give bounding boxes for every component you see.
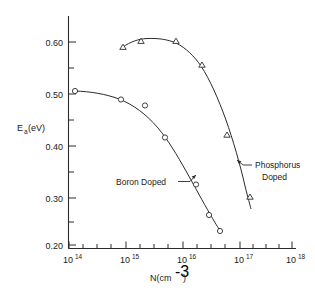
y-axis-ticks (69, 42, 77, 245)
phosphorus-annotation-line1: Phosphorus (255, 160, 300, 170)
y-tick-label-020: 0.20 (45, 241, 63, 251)
data-point-marker (193, 182, 198, 187)
y-tick-label-050: 0.50 (45, 90, 63, 100)
data-point-marker (217, 228, 222, 233)
boron-data-markers (72, 88, 222, 233)
figure-container: 0.60 0.50 0.40 0.30 0.20 E a (eV) (0, 0, 315, 295)
x-tick-label-1e17-exponent: 17 (246, 253, 254, 260)
x-axis-title-tail: ) (183, 273, 186, 283)
x-tick-label-1e18-mantissa: 10 (286, 255, 296, 265)
x-tick-label-1e18-exponent: 18 (298, 253, 306, 260)
boron-curve-line (75, 91, 219, 229)
annotation-phosphorus-doped: Phosphorus Doped (237, 160, 300, 182)
annotation-boron-doped: Boron Doped (116, 175, 196, 187)
data-point-marker (162, 135, 167, 140)
y-axis-title: E a (eV) (17, 123, 45, 135)
phosphorus-data-markers (120, 38, 253, 199)
energy-vs-doping-chart: 0.60 0.50 0.40 0.30 0.20 E a (eV) (0, 0, 315, 295)
data-point-marker (142, 103, 147, 108)
data-point-marker (224, 132, 230, 137)
data-point-marker (173, 38, 179, 43)
x-tick-label-1e14-exponent: 14 (75, 253, 83, 260)
phosphorus-annotation-line2: Doped (262, 172, 287, 182)
x-tick-label-1e15-mantissa: 10 (120, 255, 130, 265)
y-tick-label-060: 0.60 (45, 38, 63, 48)
x-axis-title: N(cm -3 ) (150, 263, 189, 283)
x-tick-label-1e15-exponent: 15 (132, 253, 140, 260)
y-axis-title-units: (eV) (28, 123, 45, 133)
x-axis-ticks (69, 242, 292, 249)
y-axis-tick-labels: 0.60 0.50 0.40 0.30 0.20 (45, 38, 63, 251)
series-boron-doped (72, 88, 222, 233)
x-tick-label-1e14-mantissa: 10 (63, 255, 73, 265)
boron-annotation-label: Boron Doped (116, 177, 166, 187)
data-point-marker (118, 97, 123, 102)
x-axis-title-main: N(cm (150, 273, 172, 283)
data-point-marker (72, 88, 77, 93)
data-point-marker (206, 212, 211, 217)
x-tick-label-1e16-exponent: 16 (189, 253, 197, 260)
y-axis-title-main: E (17, 123, 23, 133)
x-tick-label-1e17-mantissa: 10 (234, 255, 244, 265)
y-tick-label-040: 0.40 (45, 142, 63, 152)
axis-spines (69, 16, 297, 249)
y-tick-label-030: 0.30 (45, 194, 63, 204)
